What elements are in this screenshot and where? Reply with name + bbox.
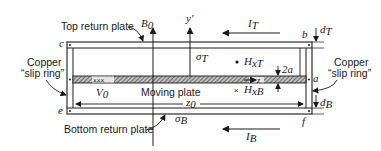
hxt-label: HxT	[243, 55, 264, 69]
v0-crosses: ×××	[93, 77, 105, 84]
bottom-return-plate-label: Bottom return plate	[64, 123, 153, 135]
y-prime-label: y′	[185, 12, 194, 24]
hxb-cross-icon: ×	[234, 86, 239, 95]
hxb-label: HxB	[243, 83, 264, 97]
left-slip-ring-leader	[46, 80, 66, 95]
moving-plate-label: Moving plate	[141, 86, 201, 98]
db-label: dB	[320, 96, 333, 110]
z0-label: z0	[185, 96, 196, 110]
right-copper-label-2: “slip ring”	[328, 67, 372, 79]
top-return-plate-label: Top return plate	[61, 20, 134, 32]
v0-label: V0	[96, 86, 109, 100]
sigma-t-label: σT	[196, 50, 208, 64]
corner-a: a	[313, 72, 319, 84]
it-label: IT	[247, 17, 259, 31]
two-a-label: 2a	[282, 63, 294, 75]
ib-label: IB	[245, 130, 257, 144]
corner-c: c	[59, 37, 64, 49]
b0-label: B0	[141, 17, 154, 31]
corner-e: e	[58, 104, 63, 116]
corner-b: b	[302, 28, 308, 40]
plate-diagram: ××× z c e b a f B0 y′ σT σB HxT × HxB 2a…	[0, 0, 381, 151]
sigma-b-label: σB	[175, 112, 187, 126]
dt-label: dT	[320, 23, 333, 37]
hxt-dot-icon	[235, 60, 238, 63]
left-copper-label-2: “slip ring”	[21, 67, 65, 79]
corner-f: f	[302, 115, 307, 127]
